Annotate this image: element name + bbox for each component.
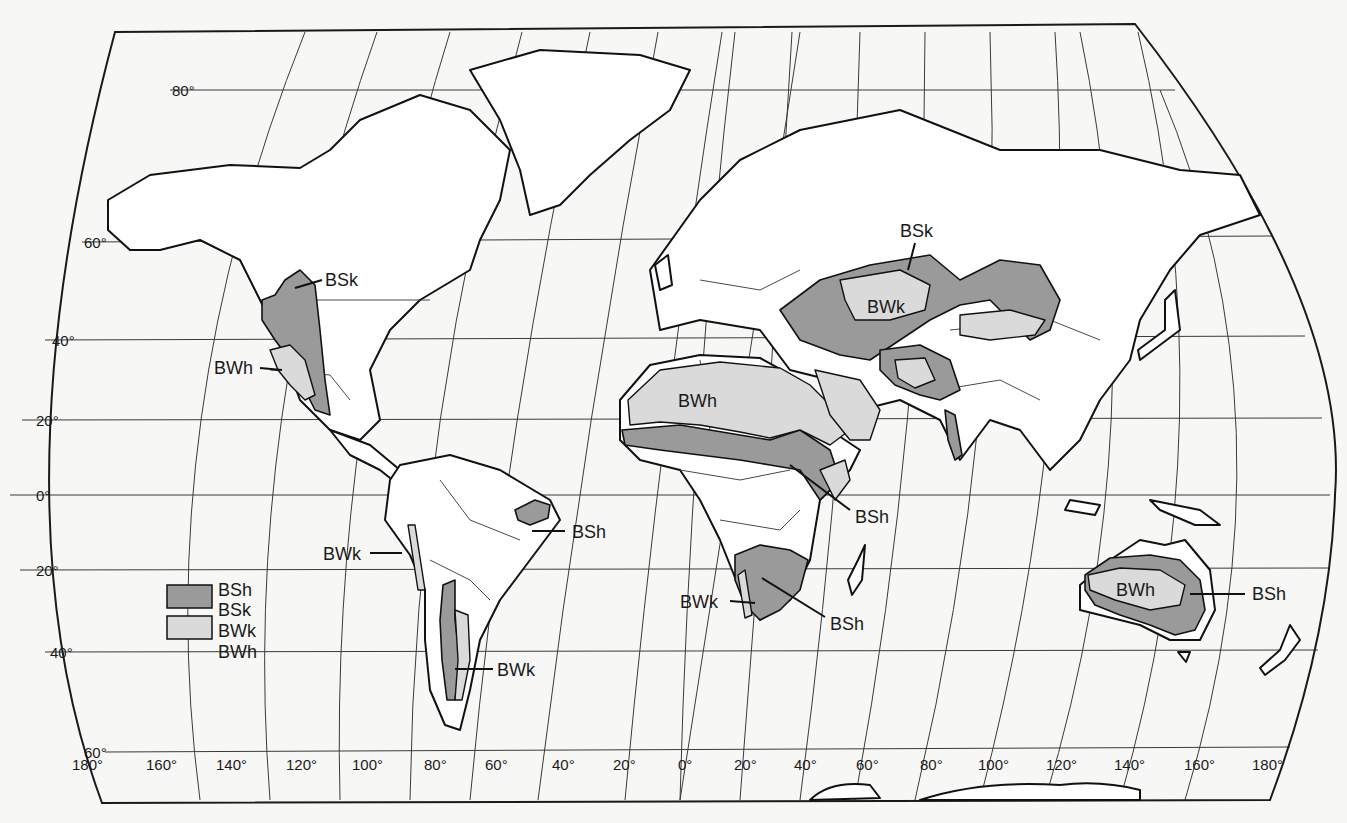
- label-kalahari-bsh: BSh: [830, 614, 864, 634]
- label-brazil-bsh: BSh: [572, 522, 606, 542]
- lat-label-0: 0°: [36, 487, 50, 504]
- label-peru-bwk: BWk: [323, 544, 362, 564]
- legend: BSh BSk BWk BWh: [167, 580, 257, 662]
- lon-label: 20°: [734, 756, 757, 773]
- lon-label: 0°: [678, 756, 692, 773]
- lon-label: 120°: [286, 756, 317, 773]
- label-asia-bwk: BWk: [867, 297, 906, 317]
- label-australia-bsh: BSh: [1252, 584, 1286, 604]
- label-patagonia-bwk: BWk: [497, 660, 536, 680]
- lon-label: 60°: [856, 756, 879, 773]
- lon-label: 80°: [920, 756, 943, 773]
- legend-swatch-desert: [167, 616, 212, 639]
- legend-swatch-steppe: [167, 585, 212, 608]
- climate-map: 80° 60° 40° 20° 0° 20° 40° 60° 180° 160°…: [0, 0, 1347, 823]
- label-sahara-bwh: BWh: [678, 391, 717, 411]
- label-namib-bwk: BWk: [680, 592, 719, 612]
- legend-label-bsh: BSh: [218, 580, 252, 600]
- lon-label: 20°: [613, 756, 636, 773]
- lat-label-60n: 60°: [84, 234, 107, 251]
- label-australia-bwh: BWh: [1116, 580, 1155, 600]
- lon-label: 180°: [72, 756, 103, 773]
- lat-label-80: 80°: [172, 82, 195, 99]
- lon-label: 40°: [794, 756, 817, 773]
- longitude-labels: 180° 160° 140° 120° 100° 80° 60° 40° 20°…: [72, 756, 1283, 773]
- lon-label: 120°: [1046, 756, 1077, 773]
- label-eafrica-bsh: BSh: [855, 507, 889, 527]
- label-na-bwh: BWh: [214, 358, 253, 378]
- lat-label-40s: 40°: [50, 644, 73, 661]
- lon-label: 60°: [485, 756, 508, 773]
- lon-label: 140°: [1114, 756, 1145, 773]
- lat-label-20n: 20°: [36, 412, 59, 429]
- lat-label-40n: 40°: [52, 332, 75, 349]
- lon-label: 100°: [352, 756, 383, 773]
- lon-label: 180°: [1252, 756, 1283, 773]
- lon-label: 160°: [1184, 756, 1215, 773]
- lon-label: 40°: [552, 756, 575, 773]
- lon-label: 100°: [978, 756, 1009, 773]
- lon-label: 160°: [146, 756, 177, 773]
- legend-label-bwh: BWh: [218, 642, 257, 662]
- lon-label: 140°: [216, 756, 247, 773]
- label-na-bsk: BSk: [325, 270, 359, 290]
- lon-label: 80°: [424, 756, 447, 773]
- legend-label-bwk: BWk: [218, 621, 257, 641]
- lat-label-20s: 20°: [36, 562, 59, 579]
- label-asia-bsk: BSk: [900, 221, 934, 241]
- legend-label-bsk: BSk: [218, 600, 252, 620]
